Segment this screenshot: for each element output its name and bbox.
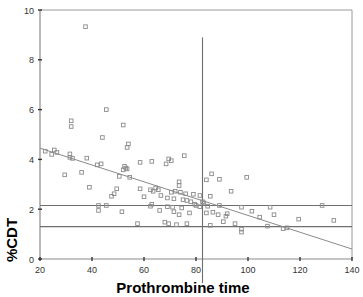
- data-point: [210, 172, 214, 176]
- data-point: [211, 210, 215, 214]
- data-point: [209, 194, 213, 198]
- data-point: [272, 213, 276, 217]
- data-point: [229, 189, 233, 193]
- data-point: [50, 153, 54, 157]
- data-point: [198, 194, 202, 198]
- data-point: [233, 222, 237, 226]
- data-point: [167, 222, 171, 226]
- data-point: [224, 214, 228, 218]
- data-point: [136, 222, 140, 226]
- data-point: [180, 206, 184, 210]
- data-point: [99, 162, 103, 166]
- data-point: [183, 154, 187, 158]
- data-point: [163, 220, 167, 224]
- data-point: [172, 197, 176, 201]
- data-point: [88, 185, 92, 189]
- y-tick-label: 0: [29, 255, 34, 265]
- y-axis-title: %CDT: [3, 218, 20, 262]
- x-tick-label: 100: [240, 265, 255, 275]
- data-point: [222, 220, 226, 224]
- data-point: [166, 196, 170, 200]
- data-point: [138, 161, 142, 165]
- data-point: [175, 223, 179, 227]
- data-point: [185, 199, 189, 203]
- data-point: [250, 209, 254, 213]
- plot-frame: [40, 10, 352, 259]
- data-point: [177, 184, 181, 188]
- x-tick-label: 140: [344, 265, 359, 275]
- data-point: [84, 25, 88, 29]
- data-markers: [43, 25, 335, 234]
- x-axis-title: Prothrombine time: [116, 279, 249, 296]
- data-point: [115, 187, 119, 191]
- data-point: [164, 162, 168, 166]
- x-tick-label: 40: [87, 265, 97, 275]
- data-point: [185, 222, 189, 226]
- data-point: [85, 156, 89, 160]
- data-point: [205, 178, 209, 182]
- y-tick-label: 6: [29, 105, 34, 115]
- data-point: [142, 195, 146, 199]
- data-point: [192, 192, 196, 196]
- y-tick-label: 8: [29, 55, 34, 65]
- data-point: [205, 211, 209, 215]
- data-point: [172, 210, 176, 214]
- x-tick-label: 20: [35, 265, 45, 275]
- y-tick-label: 4: [29, 155, 34, 165]
- chart-figure: 10 8 6 4 2 0 20 40 60 80 100 120 140 Pro…: [0, 0, 363, 297]
- regression-line-segment: [40, 148, 352, 249]
- x-tick-label: 120: [292, 265, 307, 275]
- y-tick-labels: 10 8 6 4 2 0: [24, 6, 34, 265]
- data-point: [158, 209, 162, 213]
- y-tick-label: 2: [29, 205, 34, 215]
- scatter-plot-svg: 10 8 6 4 2 0 20 40 60 80 100 120 140 Pro…: [0, 0, 363, 297]
- data-point: [188, 211, 192, 215]
- data-point: [121, 123, 125, 127]
- data-point: [218, 178, 222, 182]
- data-point: [181, 198, 185, 202]
- data-point: [297, 217, 301, 221]
- data-point: [177, 180, 181, 184]
- data-point: [80, 171, 84, 175]
- data-point: [216, 213, 220, 217]
- data-point: [159, 194, 163, 198]
- x-tick-labels: 20 40 60 80 100 120 140: [35, 265, 360, 275]
- data-point: [53, 148, 57, 152]
- y-tick-label: 10: [24, 6, 34, 16]
- regression-line: [40, 148, 352, 249]
- data-point: [97, 209, 101, 213]
- data-point: [69, 119, 73, 123]
- data-point: [118, 175, 122, 179]
- reference-lines: [40, 205, 352, 226]
- data-point: [112, 192, 116, 196]
- data-point: [332, 219, 336, 223]
- data-point: [105, 108, 109, 112]
- data-point: [245, 176, 249, 180]
- data-point: [110, 194, 114, 198]
- data-point: [63, 173, 67, 177]
- data-point: [225, 212, 229, 216]
- x-tick-label: 60: [139, 265, 149, 275]
- data-point: [101, 136, 105, 140]
- data-point: [69, 125, 73, 129]
- data-point: [138, 187, 142, 191]
- data-point: [120, 210, 124, 214]
- data-point: [177, 213, 181, 217]
- x-tick-label: 80: [191, 265, 201, 275]
- data-point: [189, 200, 193, 204]
- data-point: [150, 160, 154, 164]
